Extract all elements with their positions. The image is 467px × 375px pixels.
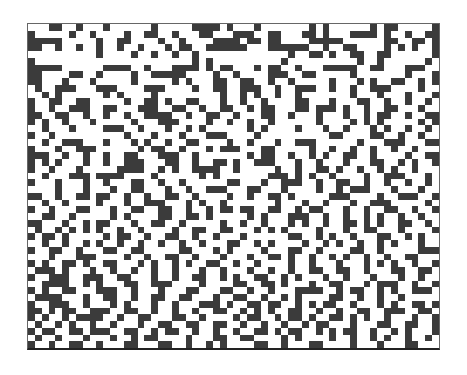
pixel-cell [35, 186, 42, 193]
pixel-cell [55, 152, 62, 159]
pixel-cell [103, 227, 110, 234]
pixel-cell [261, 139, 268, 146]
pixel-cell [213, 112, 220, 119]
pixel-cell [425, 328, 432, 335]
pixel-cell [90, 105, 97, 112]
pixel-cell [295, 314, 302, 321]
pixel-cell [343, 328, 350, 335]
pixel-cell [172, 31, 179, 38]
pixel-cell [275, 38, 282, 45]
pixel-cell [343, 206, 350, 213]
pixel-cell [364, 328, 371, 335]
pixel-cell [281, 206, 288, 213]
pixel-cell [179, 247, 186, 254]
pixel-cell [295, 260, 302, 267]
pixel-cell [357, 85, 364, 92]
pixel-cell [62, 274, 69, 281]
pixel-cell [254, 132, 261, 139]
pixel-cell [316, 152, 323, 159]
pixel-cell [117, 119, 124, 126]
pixel-cell [179, 125, 186, 132]
pixel-cell [138, 267, 145, 274]
pixel-cell [268, 132, 275, 139]
pixel-cell [412, 152, 419, 159]
pixel-cell [62, 166, 69, 173]
pixel-cell [254, 260, 261, 267]
pixel-cell [186, 159, 193, 166]
pixel-cell [377, 308, 384, 315]
pixel-cell [83, 267, 90, 274]
pixel-cell [350, 213, 357, 220]
pixel-cell [213, 159, 220, 166]
pixel-cell [35, 281, 42, 288]
pixel-cell [213, 220, 220, 227]
pixel-cell [131, 139, 138, 146]
pixel-cell [213, 85, 220, 92]
pixel-cell [329, 301, 336, 308]
pixel-cell [288, 274, 295, 281]
pixel-cell [199, 287, 206, 294]
pixel-cell [288, 294, 295, 301]
pixel-cell [281, 92, 288, 99]
pixel-cell [124, 321, 131, 328]
pixel-cell [405, 166, 412, 173]
pixel-cell [151, 200, 158, 207]
pixel-cell [96, 274, 103, 281]
pixel-cell [343, 287, 350, 294]
pixel-cell [288, 213, 295, 220]
pixel-cell [213, 341, 220, 348]
pixel-cell [213, 125, 220, 132]
pixel-cell [213, 200, 220, 207]
pixel-cell [76, 92, 83, 99]
pixel-cell [391, 139, 398, 146]
pixel-cell [206, 119, 213, 126]
pixel-cell [370, 260, 377, 267]
pixel-cell [350, 139, 357, 146]
pixel-cell [96, 179, 103, 186]
pixel-cell [138, 206, 145, 213]
pixel-cell [247, 341, 254, 348]
pixel-cell [83, 146, 90, 153]
pixel-cell [261, 233, 268, 240]
pixel-cell [261, 112, 268, 119]
pixel-cell [412, 44, 419, 51]
pixel-cell [309, 159, 316, 166]
pixel-cell [103, 267, 110, 274]
pixel-cell [391, 146, 398, 153]
pixel-cell [110, 274, 117, 281]
pixel-cell [295, 71, 302, 78]
pixel-cell [323, 38, 330, 45]
pixel-cell [96, 166, 103, 173]
pixel-cell [83, 139, 90, 146]
pixel-cell [275, 220, 282, 227]
pixel-cell [131, 274, 138, 281]
pixel-cell [186, 294, 193, 301]
pixel-cell [110, 159, 117, 166]
pixel-cell [288, 308, 295, 315]
pixel-cell [295, 105, 302, 112]
pixel-cell [179, 233, 186, 240]
pixel-cell [90, 220, 97, 227]
pixel-cell [172, 166, 179, 173]
pixel-cell [391, 71, 398, 78]
pixel-cell [418, 267, 425, 274]
pixel-cell [206, 227, 213, 234]
pixel-cell [254, 335, 261, 342]
pixel-cell [405, 220, 412, 227]
pixel-cell [165, 51, 172, 58]
pixel-cell [412, 233, 419, 240]
pixel-cell [192, 233, 199, 240]
pixel-cell [343, 240, 350, 247]
pixel-cell [432, 78, 439, 85]
pixel-cell [28, 119, 35, 126]
pixel-cell [179, 85, 186, 92]
pixel-cell [172, 173, 179, 180]
pixel-cell [192, 51, 199, 58]
pixel-cell [309, 206, 316, 213]
pixel-cell [357, 281, 364, 288]
pixel-cell [384, 254, 391, 261]
pixel-cell [186, 119, 193, 126]
pixel-cell [316, 240, 323, 247]
pixel-cell [96, 44, 103, 51]
pixel-cell [405, 85, 412, 92]
